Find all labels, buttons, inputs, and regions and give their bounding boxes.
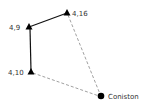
- node-label-4-9: 4,9: [9, 24, 20, 32]
- triangle-node-icon-4-16[interactable]: [64, 9, 71, 16]
- node-label-4-10: 4,10: [8, 69, 24, 77]
- edge-4-9-to-4-16: [29, 13, 67, 27]
- node-label-4-16: 4,16: [72, 10, 88, 18]
- circle-node-icon-coniston[interactable]: [98, 93, 105, 100]
- edge-4-9-to-4-10: [30, 28, 31, 71]
- node-label-coniston: Coniston: [108, 93, 139, 101]
- triangle-node-icon-4-10[interactable]: [28, 68, 35, 75]
- route-diagram: 4,16 4,9 4,10 Coniston: [0, 0, 148, 109]
- edge-4-10-to-coniston: [33, 73, 99, 96]
- edge-4-16-to-coniston: [68, 15, 100, 94]
